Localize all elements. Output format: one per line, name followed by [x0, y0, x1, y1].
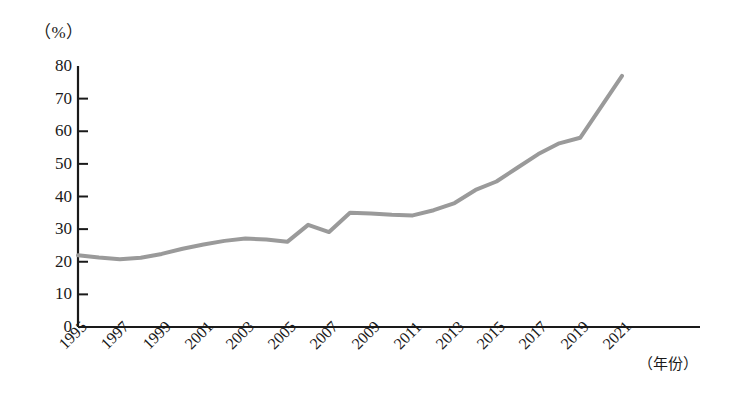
x-axis-tick-label: 2001: [182, 318, 216, 352]
x-axis-title: （年份）: [638, 352, 698, 373]
x-axis-tick-label: 2011: [391, 319, 425, 353]
x-axis-tick-label: 2007: [307, 318, 341, 352]
x-axis-tick-label: 2021: [600, 318, 634, 352]
x-axis-tick-label: 1999: [140, 318, 174, 352]
x-axis-tick-label: 2005: [265, 318, 299, 352]
x-axis-tick-label: 1995: [56, 318, 90, 352]
x-axis-tick-label: 2009: [349, 318, 383, 352]
x-axis-tick-labels: 1995199719992001200320052007200920112013…: [0, 0, 748, 407]
x-axis-tick-label: 1997: [98, 318, 132, 352]
x-axis-tick-label: 2019: [558, 318, 592, 352]
x-axis-tick-label: 2013: [433, 318, 467, 352]
x-axis-tick-label: 2003: [223, 318, 257, 352]
x-axis-tick-label: 2017: [516, 318, 550, 352]
x-axis-tick-label: 2015: [474, 318, 508, 352]
chart-container: （%） 80706050403020100 199519971999200120…: [0, 0, 748, 407]
